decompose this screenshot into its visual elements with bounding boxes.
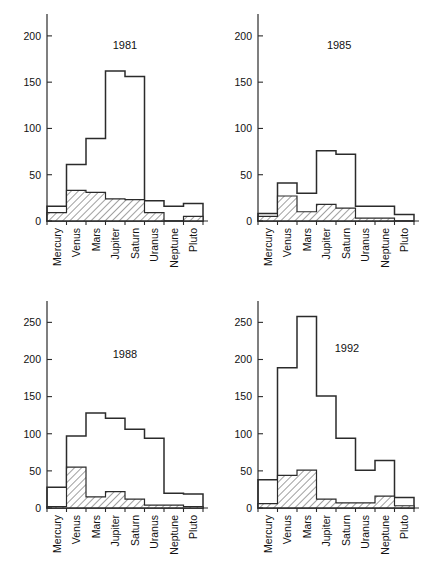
panel-year-label: 1985 [327, 39, 351, 51]
panel-year-label: 1981 [113, 39, 137, 51]
x-axis-label-saturn: Saturn [340, 515, 352, 546]
y-tick-label: 200 [234, 353, 252, 365]
y-tick-label: 150 [234, 76, 252, 88]
x-axis-label-mars: Mars [301, 515, 313, 538]
x-axis-label-uranus: Uranus [148, 228, 160, 262]
x-axis-label-jupiter: Jupiter [109, 514, 121, 546]
x-axis-label-uranus: Uranus [359, 515, 371, 549]
panel-1985: 050100150200MercuryVenusMarsJupiterSatur… [211, 0, 421, 286]
y-tick-label: 50 [29, 169, 41, 181]
y-tick-label: 0 [35, 502, 41, 514]
x-axis-label-mars: Mars [301, 228, 313, 251]
y-tick-label: 200 [23, 30, 41, 42]
x-axis-label-neptune: Neptune [168, 515, 180, 555]
x-axis-label-neptune: Neptune [379, 515, 391, 555]
x-axis-label-saturn: Saturn [129, 228, 141, 259]
x-axis-label-pluto: Pluto [398, 228, 410, 252]
x-axis-label-uranus: Uranus [148, 515, 160, 549]
x-axis-label-venus: Venus [70, 515, 82, 544]
x-axis-label-mercury: Mercury [51, 514, 63, 553]
x-axis-label-jupiter: Jupiter [320, 227, 332, 259]
series-hatched-step [47, 467, 203, 508]
x-axis-label-mars: Mars [90, 515, 102, 538]
x-axis-label-mercury: Mercury [51, 227, 63, 266]
x-axis-label-mars: Mars [90, 228, 102, 251]
panel-year-label: 1988 [113, 348, 137, 360]
x-axis-label-uranus: Uranus [359, 228, 371, 262]
x-axis-label-venus: Venus [281, 515, 293, 544]
x-axis-label-venus: Venus [281, 228, 293, 257]
y-tick-label: 100 [234, 122, 252, 134]
y-tick-label: 100 [23, 122, 41, 134]
y-tick-label: 150 [23, 76, 41, 88]
x-axis-label-neptune: Neptune [379, 228, 391, 268]
y-tick-label: 0 [35, 215, 41, 227]
four-panel-histogram-figure: 050100150200MercuryVenusMarsJupiterSatur… [0, 0, 421, 573]
y-tick-label: 0 [246, 215, 252, 227]
panel-1988: 050100150200250MercuryVenusMarsJupiterSa… [0, 287, 210, 573]
x-axis-label-saturn: Saturn [129, 515, 141, 546]
series-hatched-step [258, 196, 414, 221]
y-tick-label: 200 [234, 30, 252, 42]
x-axis-label-jupiter: Jupiter [109, 227, 121, 259]
y-tick-label: 200 [23, 353, 41, 365]
x-axis-label-pluto: Pluto [187, 228, 199, 252]
y-tick-label: 50 [240, 169, 252, 181]
y-tick-label: 150 [234, 390, 252, 402]
y-tick-label: 0 [246, 502, 252, 514]
y-tick-label: 150 [23, 390, 41, 402]
x-axis-label-pluto: Pluto [187, 515, 199, 539]
x-axis-label-pluto: Pluto [398, 515, 410, 539]
y-tick-label: 50 [240, 465, 252, 477]
y-tick-label: 250 [23, 316, 41, 328]
x-axis-label-mercury: Mercury [262, 514, 274, 553]
x-axis-label-saturn: Saturn [340, 228, 352, 259]
y-tick-label: 100 [234, 428, 252, 440]
x-axis-label-jupiter: Jupiter [320, 514, 332, 546]
series-hatched-step [258, 470, 414, 508]
x-axis-label-venus: Venus [70, 228, 82, 257]
y-tick-label: 250 [234, 316, 252, 328]
panel-year-label: 1992 [335, 342, 359, 354]
panel-1981: 050100150200MercuryVenusMarsJupiterSatur… [0, 0, 210, 286]
y-tick-label: 100 [23, 428, 41, 440]
y-tick-label: 50 [29, 465, 41, 477]
x-axis-label-mercury: Mercury [262, 227, 274, 266]
panel-1992: 050100150200250MercuryVenusMarsJupiterSa… [211, 287, 421, 573]
x-axis-label-neptune: Neptune [168, 228, 180, 268]
